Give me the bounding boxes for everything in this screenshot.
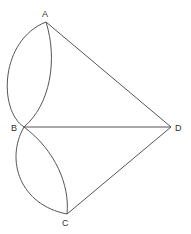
- node-label-d: D: [175, 123, 182, 133]
- node-label-a: A: [42, 9, 48, 19]
- node-label-c: C: [62, 218, 69, 228]
- edge-b-c-right: [24, 127, 67, 214]
- edge-a-b-right: [24, 22, 51, 127]
- edge-a-b-left: [7, 22, 46, 127]
- edge-c-d: [67, 127, 171, 214]
- edge-a-d: [46, 22, 171, 127]
- node-label-b: B: [11, 123, 17, 133]
- graph-diagram: A B C D: [0, 0, 191, 234]
